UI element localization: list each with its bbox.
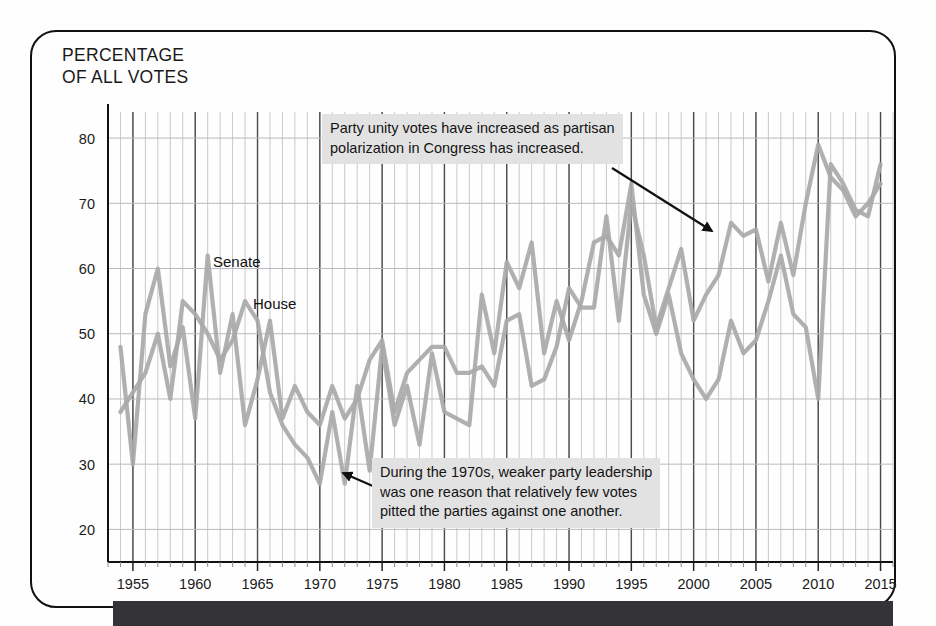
annotation-increase-note: Party unity votes have increased as part… — [322, 114, 623, 164]
svg-text:1975: 1975 — [366, 576, 398, 592]
svg-text:2015: 2015 — [864, 576, 896, 592]
svg-text:2010: 2010 — [802, 576, 834, 592]
y-axis-tick-labels: 20304050607080 — [79, 131, 95, 538]
svg-text:50: 50 — [79, 326, 95, 342]
svg-text:2005: 2005 — [740, 576, 772, 592]
svg-text:30: 30 — [79, 457, 95, 473]
x-axis-ticks — [108, 562, 893, 571]
svg-text:1980: 1980 — [428, 576, 460, 592]
page-background: PERCENTAGE OF ALL VOTES 1955196019651970… — [0, 0, 936, 626]
series-label-senate: Senate — [213, 253, 261, 270]
svg-text:40: 40 — [79, 391, 95, 407]
svg-text:20: 20 — [79, 522, 95, 538]
x-axis-tick-labels: 1955196019651970197519801985199019952000… — [117, 576, 897, 592]
svg-text:80: 80 — [79, 131, 95, 147]
svg-text:1995: 1995 — [615, 576, 647, 592]
svg-text:1960: 1960 — [179, 576, 211, 592]
svg-text:1965: 1965 — [241, 576, 273, 592]
footer-bar — [113, 601, 893, 626]
svg-text:1955: 1955 — [117, 576, 149, 592]
data-series-lines — [120, 145, 880, 484]
svg-text:70: 70 — [79, 196, 95, 212]
svg-text:1970: 1970 — [304, 576, 336, 592]
series-label-house: House — [253, 295, 296, 312]
line-chart: 1955196019651970197519801985199019952000… — [0, 0, 936, 626]
svg-text:2000: 2000 — [678, 576, 710, 592]
svg-text:1985: 1985 — [491, 576, 523, 592]
svg-text:1990: 1990 — [553, 576, 585, 592]
annotation-1970s-note: During the 1970s, weaker party leadershi… — [372, 458, 660, 528]
svg-text:60: 60 — [79, 261, 95, 277]
